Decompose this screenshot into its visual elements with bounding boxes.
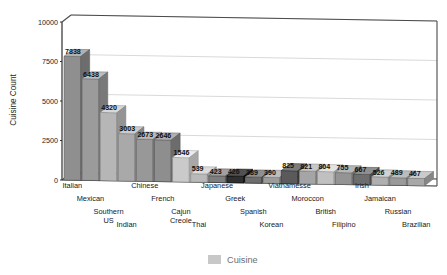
bar-value-label: 6438 bbox=[83, 71, 99, 79]
bar-value-label: 825 bbox=[282, 162, 294, 170]
bar-value-label: 3003 bbox=[119, 125, 135, 133]
x-category-label: Mexican bbox=[77, 194, 105, 203]
x-category-label: Chinese bbox=[131, 181, 158, 190]
bar-value-label: 4320 bbox=[101, 104, 117, 112]
legend-label: Cuisine bbox=[227, 255, 258, 265]
x-category-label: French bbox=[151, 194, 174, 203]
bar-value-label: 755 bbox=[337, 164, 349, 172]
x-category-label: Japanese bbox=[201, 181, 233, 190]
x-category-label: Italian bbox=[62, 181, 82, 190]
bar-value-label: 2646 bbox=[156, 132, 172, 140]
x-category-label: Thai bbox=[192, 220, 207, 229]
y-tick-label: 5000 bbox=[42, 97, 58, 106]
x-category-label: Brazilian bbox=[402, 220, 430, 229]
bar-value-label: 389 bbox=[246, 169, 258, 177]
legend: Cuisine bbox=[208, 255, 258, 265]
bar-value-label: 467 bbox=[409, 170, 421, 178]
x-category-label: Irish bbox=[355, 181, 369, 190]
chart-canvas: 7838643843203003267326461546539423426389… bbox=[0, 0, 447, 275]
cuisine-count-bar-chart: 7838643843203003267326461546539423426389… bbox=[0, 0, 447, 275]
bar-value-label: 390 bbox=[264, 169, 276, 177]
x-category-label: Spanish bbox=[240, 207, 267, 216]
y-tick-label: 0 bbox=[54, 176, 58, 185]
x-category-label: CajunCreole bbox=[170, 207, 192, 225]
bar-value-label: 821 bbox=[300, 163, 312, 171]
y-axis-title: Cuisine Count bbox=[9, 74, 18, 126]
bar-value-label: 2673 bbox=[137, 131, 153, 139]
x-category-label: British bbox=[315, 207, 336, 216]
x-category-label: Moroccon bbox=[291, 194, 323, 203]
x-category-label: Russian bbox=[385, 207, 412, 216]
bar-value-label: 539 bbox=[192, 165, 204, 173]
y-tick-label: 10000 bbox=[38, 18, 58, 27]
x-category-label: Jamaican bbox=[364, 194, 396, 203]
y-tick-label: 2500 bbox=[42, 136, 58, 145]
y-tick-label: 7500 bbox=[42, 57, 58, 66]
bar-value-label: 526 bbox=[373, 169, 385, 177]
x-category-label: Indian bbox=[117, 220, 137, 229]
bar-value-label: 426 bbox=[228, 168, 240, 176]
bar-value-label: 489 bbox=[391, 169, 403, 177]
x-category-label: Viatnamesse bbox=[268, 181, 311, 190]
x-category-label: Greek bbox=[225, 194, 245, 203]
x-category-label: Filipino bbox=[332, 220, 355, 229]
bar-value-label: 423 bbox=[210, 168, 222, 176]
x-category-label: Korean bbox=[260, 220, 284, 229]
bar-value-label: 804 bbox=[318, 163, 330, 171]
bar-value-label: 1546 bbox=[174, 149, 190, 157]
bar-value-label: 667 bbox=[355, 166, 367, 174]
bar-value-label: 7838 bbox=[65, 48, 81, 56]
legend-swatch bbox=[208, 255, 221, 264]
